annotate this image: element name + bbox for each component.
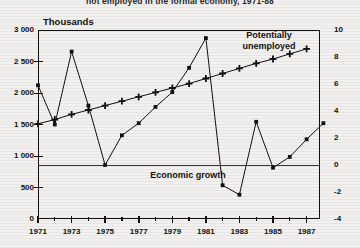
annotation-potentially-unemployed: Potentially unemployed	[228, 30, 310, 51]
annotation-line-2: unemployed	[228, 41, 310, 52]
annotation-line-1: Potentially	[228, 30, 310, 41]
series-potentially-unemployed	[35, 46, 310, 128]
chart-figure: not employed in the formal economy, 1971…	[0, 0, 360, 248]
annotation-economic-growth: Economic growth	[128, 170, 248, 181]
